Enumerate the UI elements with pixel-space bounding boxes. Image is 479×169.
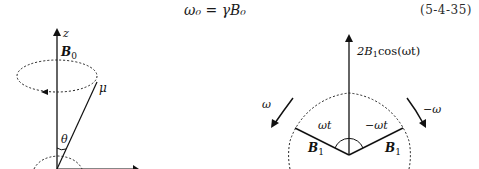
omega-label: ω	[262, 98, 271, 111]
x-axis-arrow-icon	[133, 165, 139, 169]
rotating-field-diagram: 2B1cos(ωt) ωt −ωt B1 B1 ω −ω	[262, 38, 441, 169]
theta-arc	[57, 148, 66, 150]
rotation-arrow-icon	[41, 89, 48, 95]
omega-t-label: ωt	[318, 119, 332, 132]
figure-canvas: z B0 μ θ 2B1cos(ωt) ωt	[0, 0, 479, 169]
moment-vector	[57, 82, 97, 169]
neg-omega-t-label: −ωt	[365, 119, 388, 132]
cw-arrowhead-icon	[419, 119, 426, 128]
cw-rotation-arrow	[407, 98, 423, 123]
b1-right-label: B1	[384, 141, 401, 157]
b1-left-label: B1	[307, 141, 324, 157]
mu-label: μ	[99, 81, 107, 95]
ccw-arrowhead-icon	[271, 119, 279, 128]
b0-label: B0	[60, 45, 77, 61]
precession-diagram: z B0 μ θ	[17, 27, 139, 169]
resultant-label: 2B1cos(ωt)	[356, 44, 420, 59]
theta-label: θ	[61, 133, 68, 146]
z-axis-label: z	[62, 27, 69, 40]
ccw-rotation-arrow	[275, 98, 293, 123]
neg-omega-label: −ω	[423, 103, 441, 116]
